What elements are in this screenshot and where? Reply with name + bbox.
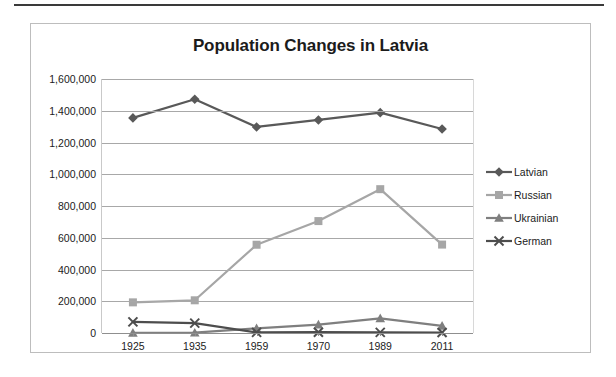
legend-marker-triangle-icon [486,211,512,225]
y-gridline [102,79,473,80]
x-axis-tick-label: 1970 [307,340,330,352]
legend-item-ukrainian[interactable]: Ukrainian [486,206,586,229]
legend-label: Russian [514,189,552,201]
x-axis-tick-label: 1935 [183,340,206,352]
legend-item-german[interactable]: German [486,229,586,252]
legend-label: German [514,235,552,247]
y-axis-tick-label: 600,000 [58,232,96,244]
x-axis-tick-label: 2011 [431,340,454,352]
series-russian [129,185,446,306]
series-latvian [128,95,447,134]
y-axis-tick-label: 1,200,000 [49,137,96,149]
y-gridline [102,301,473,302]
y-axis-tick-label: 800,000 [58,200,96,212]
chart-title: Population Changes in Latvia [31,36,590,56]
legend-marker-x-icon [486,234,512,248]
y-gridline [102,206,473,207]
legend-label: Ukrainian [514,212,558,224]
plot-area: 1,600,0001,400,0001,200,0001,000,000800,… [101,79,474,333]
legend-item-latvian[interactable]: Latvian [486,160,586,183]
legend-label: Latvian [514,166,548,178]
x-axis-tick-label: 1959 [245,340,268,352]
chart-figure: Population Changes in Latvia 1,600,0001,… [30,23,591,353]
x-axis-tick-mark [318,333,319,336]
x-axis-tick-mark [380,333,381,336]
y-gridline [102,111,473,112]
x-axis-tick-mark [133,333,134,336]
x-axis-tick-label: 1989 [369,340,392,352]
legend-marker-square-icon [486,188,512,202]
legend-item-russian[interactable]: Russian [486,183,586,206]
y-axis-tick-label: 400,000 [58,264,96,276]
x-axis-tick-mark [257,333,258,336]
y-gridline [102,238,473,239]
x-axis-tick-label: 1925 [121,340,144,352]
y-axis-tick-label: 1,600,000 [49,73,96,85]
y-axis-tick-label: 0 [90,327,96,339]
legend-marker-diamond-icon [486,165,512,179]
y-gridline [102,333,473,334]
x-axis-tick-mark [442,333,443,336]
y-axis-tick-label: 200,000 [58,295,96,307]
y-gridline [102,174,473,175]
y-gridline [102,143,473,144]
y-axis-tick-label: 1,400,000 [49,105,96,117]
x-axis-tick-mark [195,333,196,336]
y-gridline [102,270,473,271]
chart-legend: LatvianRussianUkrainianGerman [486,160,586,252]
top-divider-rule [14,4,604,6]
y-axis-tick-label: 1,000,000 [49,168,96,180]
